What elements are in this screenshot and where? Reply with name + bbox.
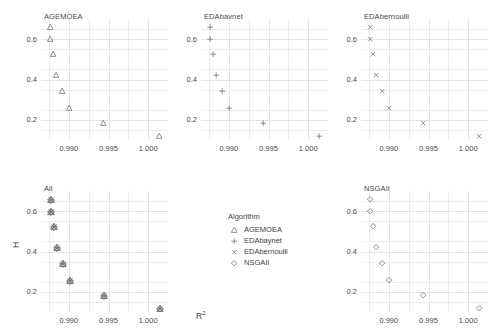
gridline-horizontal-minor [361,130,488,131]
x-axis-tick-label: 1.000 [452,316,484,325]
facet-all: All 0.20.40.60.9900.9951.000 [0,172,170,332]
plot-panel-edabernoulli [361,19,488,140]
plot-panel-nsgaii [361,191,488,312]
triangle-marker-icon [228,224,241,235]
y-axis-tick-label: 0.6 [12,35,37,44]
y-axis-tick-label: 0.2 [12,287,37,296]
x-axis-tick-label: 1.000 [452,144,484,153]
y-axis-tick-label: 0.4 [332,75,357,84]
legend-item[interactable]: NSGAII [228,257,288,268]
gridline-horizontal-minor [41,49,168,50]
gridline-horizontal-minor [361,302,488,303]
gridline-horizontal-minor [361,201,488,202]
y-axis-tick-label: 0.2 [172,115,197,124]
gridline-horizontal-major [41,39,168,40]
gridline-horizontal-minor [41,221,168,222]
x-axis-tick-label: 0.995 [413,316,445,325]
legend-item[interactable]: EDAbernoulli [228,246,288,257]
plot-panel-edabaynet [201,19,328,140]
gridline-horizontal-minor [201,29,328,30]
gridline-horizontal-major [41,80,168,81]
x-axis-tick-label: 0.990 [373,316,405,325]
x-axis-tick-label: 0.990 [53,144,85,153]
y-axis-tick-label: 0.6 [172,35,197,44]
y-axis-tick-label: 0.2 [12,115,37,124]
plus-marker-icon [228,235,241,246]
y-axis-tick-label: 0.6 [332,207,357,216]
gridline-horizontal-major [41,211,168,212]
x-axis-label-superscript: 2 [202,310,205,316]
gridline-horizontal-minor [201,130,328,131]
gridline-horizontal-minor [41,130,168,131]
gridline-horizontal-major [361,80,488,81]
y-axis-tick-label: 0.4 [332,247,357,256]
facet-agemoea: AGEMOEA 0.20.40.60.9900.9951.000 [0,0,170,160]
x-axis-tick-label: 0.995 [413,144,445,153]
gridline-horizontal-minor [361,282,488,283]
x-axis-tick-label: 0.990 [373,144,405,153]
legend-item-label: AGEMOEA [241,225,282,234]
gridline-horizontal-minor [201,49,328,50]
legend-item[interactable]: AGEMOEA [228,224,288,235]
legend-items: AGEMOEAEDAbaynetEDAbernoulliNSGAII [228,224,288,268]
legend-item[interactable]: EDAbaynet [228,235,288,246]
facet-nsgaii: NSGAII 0.20.40.60.9900.9951.000 [320,172,491,332]
legend-title: Algorithm [228,212,288,221]
gridline-horizontal-minor [201,110,328,111]
gridline-horizontal-minor [361,29,488,30]
gridline-horizontal-minor [41,302,168,303]
y-axis-tick-label: 0.6 [332,35,357,44]
gridline-horizontal-minor [41,110,168,111]
diamond-marker-icon [228,257,241,268]
legend-item-label: NSGAII [241,258,269,267]
cross-marker-icon [228,246,241,257]
x-axis-tick-label: 0.990 [53,316,85,325]
legend: Algorithm AGEMOEAEDAbaynetEDAbernoulliNS… [228,212,288,268]
y-axis-tick-label: 0.4 [172,75,197,84]
gridline-horizontal-minor [361,221,488,222]
plot-panel-all [41,191,168,312]
facet-edabernoulli: EDAbernoulli 0.20.40.60.9900.9951.000 [320,0,491,160]
legend-item-label: EDAbaynet [241,236,282,245]
chart-root: AGEMOEA 0.20.40.60.9900.9951.000 EDAbayn… [0,0,491,332]
gridline-horizontal-major [361,252,488,253]
y-axis-label: H [11,242,21,248]
y-axis-tick-label: 0.2 [332,115,357,124]
gridline-horizontal-minor [41,29,168,30]
x-axis-tick-label: 0.990 [213,144,245,153]
gridline-horizontal-major [361,39,488,40]
legend-item-label: EDAbernoulli [241,247,288,256]
plot-panel-agemoea [41,19,168,140]
x-axis-tick-label: 0.995 [93,316,125,325]
x-axis-tick-label: 0.995 [93,144,125,153]
gridline-horizontal-minor [361,110,488,111]
gridline-horizontal-minor [41,282,168,283]
y-axis-tick-label: 0.6 [12,207,37,216]
gridline-horizontal-major [201,39,328,40]
x-axis-tick-label: 1.000 [132,316,164,325]
gridline-horizontal-major [361,211,488,212]
gridline-horizontal-major [201,80,328,81]
y-axis-tick-label: 0.4 [12,247,37,256]
y-axis-tick-label: 0.2 [332,287,357,296]
gridline-horizontal-minor [41,201,168,202]
facet-edabaynet: EDAbaynet 0.20.40.60.9900.9951.000 [160,0,330,160]
x-axis-label: R2 [196,310,205,321]
gridline-horizontal-minor [361,49,488,50]
x-axis-tick-label: 0.995 [253,144,285,153]
y-axis-tick-label: 0.4 [12,75,37,84]
